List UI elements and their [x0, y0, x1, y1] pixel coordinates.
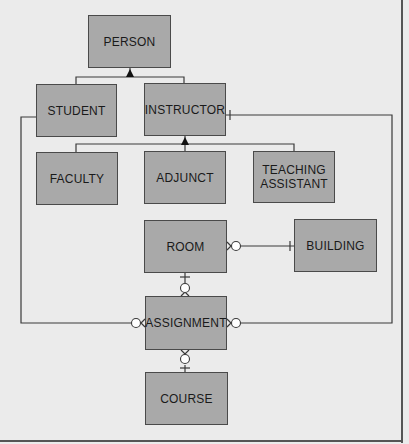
entity-assignment: ASSIGNMENT	[145, 296, 227, 350]
assignment-top-zero-circle-icon	[181, 284, 190, 293]
instructor-generalization-triangle-icon	[181, 137, 189, 145]
entity-teaching-assistant: TEACHING ASSISTANT	[253, 151, 335, 203]
er-diagram: PERSON STUDENT INSTRUCTOR FACULTY ADJUNC…	[0, 0, 409, 444]
entity-faculty: FACULTY	[36, 152, 118, 205]
assignment-bottom-crowfoot	[181, 350, 189, 354]
room-zero-circle-icon	[232, 242, 241, 251]
entity-room: ROOM	[144, 220, 227, 273]
assignment-left-zero-circle-icon	[132, 319, 141, 328]
entity-person: PERSON	[88, 15, 171, 68]
assignment-bottom-zero-circle-icon	[181, 355, 190, 364]
entity-instructor: INSTRUCTOR	[144, 83, 226, 136]
entity-student: STUDENT	[36, 84, 117, 137]
entity-building: BUILDING	[294, 219, 377, 272]
assignment-right-zero-circle-icon	[232, 319, 241, 328]
person-generalization-triangle-icon	[126, 69, 134, 77]
room-crowfoot	[227, 242, 231, 250]
frame-border-right	[401, 0, 403, 443]
assignment-right-crowfoot	[227, 319, 231, 327]
frame-border-bottom	[0, 440, 403, 442]
entity-course: COURSE	[145, 372, 228, 425]
entity-adjunct: ADJUNCT	[144, 151, 226, 204]
